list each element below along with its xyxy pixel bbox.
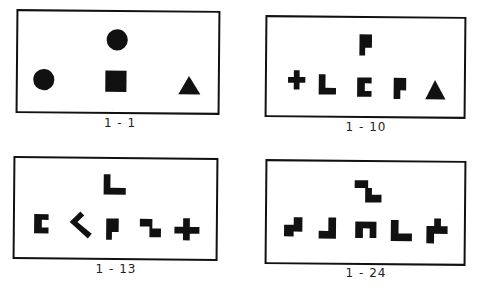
choice-poly-shape-icon <box>174 218 199 240</box>
choice-poly-shape-icon <box>426 218 447 243</box>
panel-shapes <box>18 11 219 113</box>
choice-square-shape-icon <box>105 71 126 92</box>
choice-circle-shape-icon <box>33 69 54 90</box>
stimulus-panel-1-1 <box>16 9 221 115</box>
panel-caption-1-10: 1 - 10 <box>326 120 406 134</box>
target-circle-shape-icon <box>107 29 128 50</box>
stimulus-panel-1-10 <box>265 15 467 119</box>
panel-shapes <box>267 17 465 117</box>
choice-poly-shape-icon <box>394 78 407 99</box>
choice-poly-shape-icon <box>34 214 49 233</box>
panel-shapes <box>15 158 217 259</box>
stimulus-panel-1-24 <box>265 159 467 266</box>
choice-poly-shape-icon <box>391 220 412 241</box>
target-poly-shape-icon <box>355 180 382 202</box>
choice-poly-shape-icon <box>319 74 336 94</box>
stimulus-panel-1-13 <box>13 156 219 261</box>
choice-poly-shape-icon <box>355 222 376 239</box>
target-poly-shape-icon <box>104 174 126 194</box>
panel-caption-1-24: 1 - 24 <box>326 266 406 280</box>
choice-poly-shape-icon <box>284 217 302 236</box>
target-poly-shape-icon <box>359 34 372 55</box>
choice-poly-shape-icon <box>106 219 119 240</box>
choice-triangle-shape-icon <box>425 80 445 99</box>
choice-poly-shape-icon <box>140 219 161 237</box>
choice-poly-shape-icon <box>319 217 336 238</box>
choice-poly-shape-icon <box>357 77 372 96</box>
choice-poly-shape-icon <box>288 70 305 89</box>
choice-triangle-shape-icon <box>178 76 200 94</box>
choice-poly-shape-icon <box>70 211 92 238</box>
panel-caption-1-13: 1 - 13 <box>76 262 156 276</box>
panel-caption-1-1: 1 - 1 <box>80 116 160 130</box>
panel-shapes <box>267 161 465 264</box>
